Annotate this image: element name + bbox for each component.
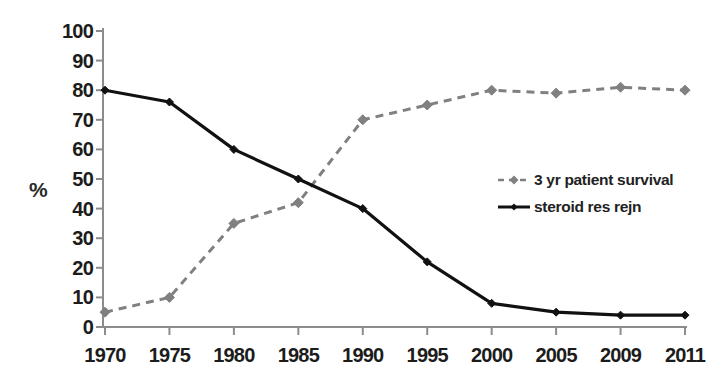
y-axis-tick-label: 0 [41, 317, 93, 337]
data-point-marker [487, 85, 497, 95]
legend-label: steroid res rejn [534, 198, 641, 216]
x-axis-tick-label: 2011 [646, 345, 716, 365]
data-point-marker [551, 88, 561, 98]
data-point-marker [358, 115, 368, 125]
y-axis-tick-label: 40 [41, 199, 93, 219]
y-axis-tick-label: 70 [41, 110, 93, 130]
dashed-line-diamond-marker-icon [497, 173, 531, 187]
legend-item-2[interactable]: steroid res rejn [497, 198, 641, 216]
legend-label: 3 yr patient survival [534, 171, 673, 189]
legend-item-1[interactable]: 3 yr patient survival [497, 171, 673, 189]
plot-area [0, 0, 716, 385]
solid-line-diamond-marker-icon [497, 200, 531, 214]
data-point-marker [617, 311, 625, 319]
y-axis-tick-label: 100 [41, 21, 93, 41]
y-axis-tick-label: 50 [41, 169, 93, 189]
data-point-marker [422, 100, 432, 110]
data-point-marker [293, 198, 303, 208]
data-point-marker [552, 308, 560, 316]
y-axis-tick-label: 60 [41, 139, 93, 159]
y-axis-tick-label: 10 [41, 287, 93, 307]
line-chart: % 0102030405060708090100 197019751980198… [0, 0, 716, 385]
y-axis-tick-label: 30 [41, 228, 93, 248]
data-point-marker [100, 307, 110, 317]
data-point-marker [680, 85, 690, 95]
data-point-marker [681, 311, 689, 319]
y-axis-tick-label: 20 [41, 258, 93, 278]
data-point-marker [616, 82, 626, 92]
y-axis-tick-label: 80 [41, 80, 93, 100]
y-axis-tick-label: 90 [41, 51, 93, 71]
